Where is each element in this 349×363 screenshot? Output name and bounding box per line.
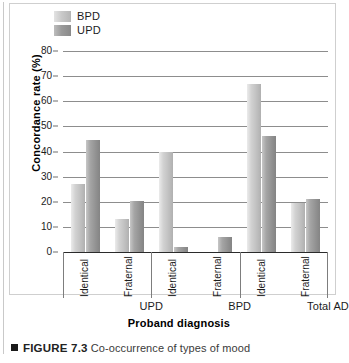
bar-bpd-0 (71, 184, 85, 252)
x-category-label-5: Fraternal (300, 256, 311, 297)
y-tick-label-80: 80 (41, 46, 52, 56)
y-tick-label-50: 50 (41, 121, 52, 131)
bar-bpd-5 (291, 203, 305, 252)
y-tick-label-60: 60 (41, 96, 52, 106)
bar-bpd-4 (247, 84, 261, 252)
y-tick-label-20: 20 (41, 197, 52, 207)
legend-swatch-upd-icon (54, 25, 71, 36)
x-axis-category-labels: IdenticalFraternalIdenticalFraternalIden… (63, 253, 328, 299)
y-tick-label-10: 10 (41, 222, 52, 232)
caption-text: Co-occurrence of types of mood (91, 342, 251, 354)
y-tick-label-0: 0 (46, 247, 52, 257)
y-tick-mark-60 (53, 101, 58, 102)
x-category-label-3: Fraternal (212, 256, 223, 297)
caption-marker-icon (11, 344, 18, 351)
y-tick-mark-30 (53, 176, 58, 177)
y-tick-mark-10 (53, 226, 58, 227)
bar-series-container (63, 51, 328, 252)
x-group-label-bpd: BPD (228, 300, 251, 312)
x-group-label-upd: UPD (140, 300, 164, 312)
figure-frame: BPD UPD Concordance rate (%) 01020304050… (9, 3, 336, 295)
legend-label-bpd: BPD (77, 10, 100, 22)
caption-figure-number: FIGURE 7.3 (23, 342, 88, 354)
y-tick-mark-70 (53, 76, 58, 77)
x-category-label-2: Identical (167, 259, 178, 297)
plot-area (63, 51, 328, 252)
bar-upd-4 (262, 136, 276, 252)
legend-swatch-bpd-icon (54, 11, 71, 22)
figure-caption: FIGURE 7.3 Co-occurrence of types of moo… (11, 342, 331, 355)
x-axis-group-labels: UPDBPDTotal AD (63, 300, 328, 314)
x-axis-title: Proband diagnosis (10, 317, 348, 329)
y-tick-label-30: 30 (41, 172, 52, 182)
legend-item-bpd: BPD (54, 9, 124, 23)
y-tick-mark-40 (53, 151, 58, 152)
bar-upd-5 (306, 199, 320, 252)
legend-item-upd: UPD (54, 23, 124, 37)
chart-legend: BPD UPD (54, 9, 124, 37)
x-group-label-total-ad: Total AD (307, 300, 349, 312)
x-category-label-1: Fraternal (123, 256, 134, 297)
y-axis-tick-labels: 01020304050607080 (36, 51, 58, 252)
bar-upd-0 (86, 140, 100, 252)
x-category-label-0: Identical (79, 259, 90, 297)
bar-bpd-2 (159, 152, 173, 253)
y-tick-mark-80 (53, 51, 58, 52)
y-tick-mark-20 (53, 201, 58, 202)
x-category-label-4: Identical (256, 259, 267, 297)
bar-upd-1 (130, 201, 144, 253)
legend-label-upd: UPD (77, 24, 101, 36)
page-margin-rule (3, 2, 4, 354)
bar-bpd-1 (115, 219, 129, 252)
y-tick-label-40: 40 (41, 147, 52, 157)
y-tick-mark-50 (53, 126, 58, 127)
y-tick-mark-0 (53, 252, 58, 253)
bar-upd-3 (218, 237, 232, 252)
y-tick-label-70: 70 (41, 71, 52, 81)
